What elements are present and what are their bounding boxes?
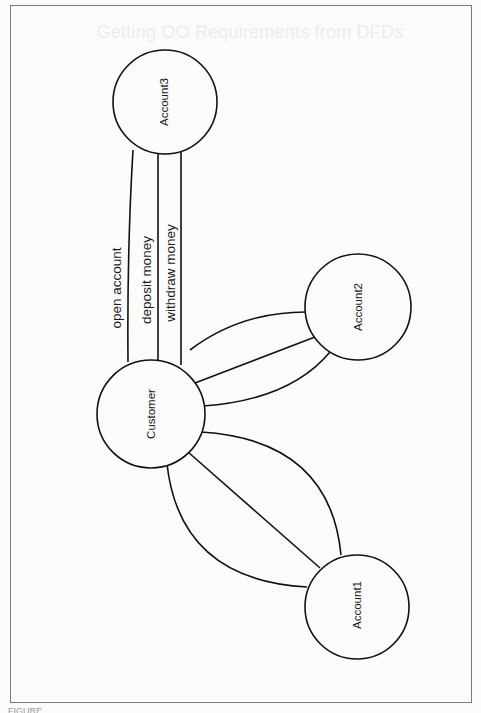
flow-label-deposit-money: deposit money xyxy=(139,236,154,324)
flow-label-withdraw-money: withdraw money xyxy=(163,224,178,323)
node-label-customer: Customer xyxy=(145,389,157,439)
dfd-diagram: Account3 Customer Account2 Account1 open… xyxy=(0,0,481,713)
edge-customer-account2-middle xyxy=(195,337,315,383)
edge-customer-account1-lower xyxy=(167,464,307,587)
edge-customer-account2-lower xyxy=(203,352,330,406)
edge-customer-account1-middle xyxy=(188,452,320,568)
edge-customer-account2-upper xyxy=(190,312,306,350)
node-label-account2: Account2 xyxy=(352,283,364,331)
node-label-account3: Account3 xyxy=(158,78,170,126)
node-label-account1: Account1 xyxy=(351,581,363,629)
flow-label-open-account: open account xyxy=(109,247,124,328)
edge-open-account xyxy=(128,150,133,362)
edge-customer-account1-upper xyxy=(201,432,341,555)
figure-caption: FIGURE xyxy=(8,706,42,713)
